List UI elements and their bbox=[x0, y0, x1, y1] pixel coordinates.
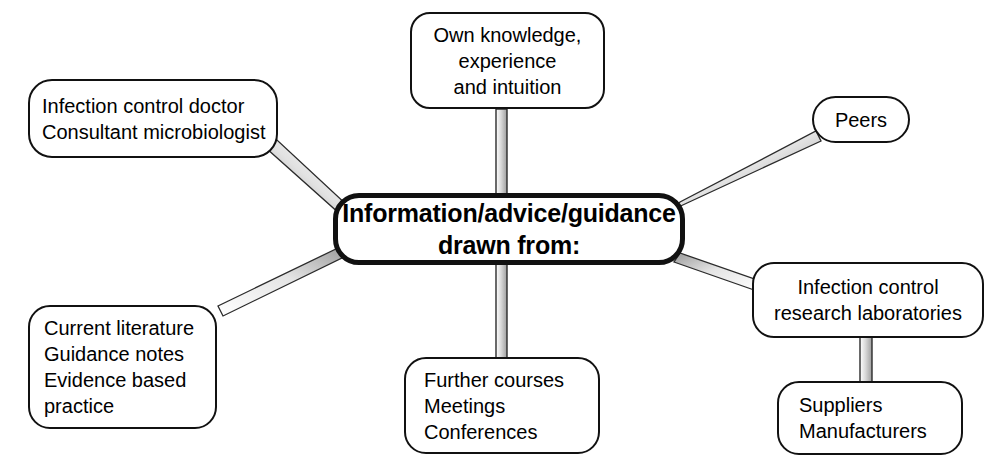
connector-central-to-courses bbox=[496, 262, 507, 359]
central-node: Information/advice/guidance drawn from: bbox=[333, 193, 685, 265]
connector-central-to-literature bbox=[218, 247, 348, 316]
node-suppliers: Suppliers Manufacturers bbox=[777, 381, 963, 455]
node-own-knowledge-line-2: experience bbox=[459, 48, 557, 74]
connector-central-to-peers bbox=[672, 131, 821, 210]
node-peers-line-1: Peers bbox=[835, 107, 887, 133]
mind-map-diagram: Information/advice/guidance drawn from: … bbox=[0, 0, 998, 467]
node-current-literature-line-4: practice bbox=[30, 393, 114, 419]
node-own-knowledge: Own knowledge, experience and intuition bbox=[410, 12, 605, 109]
node-current-literature-line-2: Guidance notes bbox=[30, 341, 184, 367]
node-further-courses-line-3: Conferences bbox=[406, 419, 537, 445]
node-suppliers-line-1: Suppliers bbox=[779, 392, 882, 418]
node-further-courses: Further courses Meetings Conferences bbox=[404, 357, 600, 454]
node-current-literature-line-3: Evidence based bbox=[30, 367, 186, 393]
node-infection-control-doctor-line-2: Consultant microbiologist bbox=[30, 119, 265, 145]
node-current-literature: Current literature Guidance notes Eviden… bbox=[28, 305, 217, 429]
node-own-knowledge-line-1: Own knowledge, bbox=[434, 22, 582, 48]
connector-central-to-infection-doctor bbox=[266, 140, 348, 214]
node-further-courses-line-1: Further courses bbox=[406, 367, 564, 393]
central-node-line-2: drawn from: bbox=[438, 229, 580, 262]
node-infection-control-doctor-line-1: Infection control doctor bbox=[30, 93, 244, 119]
connector-central-to-research-labs bbox=[674, 253, 760, 291]
node-research-laboratories: Infection control research laboratories bbox=[752, 262, 984, 338]
node-further-courses-line-2: Meetings bbox=[406, 393, 505, 419]
node-research-laboratories-line-2: research laboratories bbox=[774, 300, 962, 326]
node-current-literature-line-1: Current literature bbox=[30, 315, 194, 341]
node-research-laboratories-line-1: Infection control bbox=[797, 274, 938, 300]
node-suppliers-line-2: Manufacturers bbox=[779, 418, 927, 444]
central-node-line-1: Information/advice/guidance bbox=[342, 197, 676, 230]
connector-central-to-own-knowledge bbox=[496, 109, 507, 196]
node-infection-control-doctor: Infection control doctor Consultant micr… bbox=[28, 79, 278, 158]
node-own-knowledge-line-3: and intuition bbox=[454, 74, 562, 100]
node-peers: Peers bbox=[812, 96, 910, 143]
connector-research-labs-to-suppliers bbox=[860, 336, 872, 383]
